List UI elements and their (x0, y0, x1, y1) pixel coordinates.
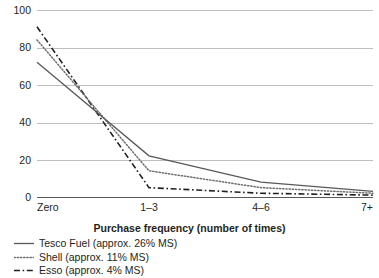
plot-area (37, 10, 373, 198)
y-tick-label: 40 (19, 117, 31, 128)
legend-item-shell[interactable]: Shell (approx. 11% MS) (14, 251, 374, 265)
legend-line-dotted-icon (14, 253, 34, 262)
x-tick-label: 1–3 (140, 201, 158, 213)
y-tick-label: 20 (19, 155, 31, 166)
x-tick-label: 7+ (361, 201, 373, 213)
x-tick-label: 4–6 (252, 201, 270, 213)
legend: Tesco Fuel (approx. 26% MS) Shell (appro… (14, 237, 374, 278)
y-tick-label: 100 (13, 5, 31, 16)
series-line-shell (37, 40, 373, 193)
legend-line-dashdot-icon (14, 266, 34, 275)
x-tick-label: Zero (37, 201, 59, 213)
x-axis: Zero 1–3 4–6 7+ (37, 201, 373, 217)
legend-item-tesco-fuel[interactable]: Tesco Fuel (approx. 26% MS) (14, 237, 374, 251)
legend-item-esso[interactable]: Esso (approx. 4% MS) (14, 264, 374, 278)
y-tick-label: 0 (25, 192, 31, 203)
legend-label: Tesco Fuel (approx. 26% MS) (39, 238, 177, 249)
y-tick-label: 60 (19, 80, 31, 91)
series-layer (37, 10, 373, 198)
legend-line-solid-icon (14, 239, 34, 248)
legend-label: Shell (approx. 11% MS) (39, 252, 149, 263)
x-axis-title: Purchase frequency (number of times) (0, 222, 379, 234)
series-line-esso (37, 27, 373, 195)
y-axis: 100 80 60 40 20 0 (0, 0, 31, 208)
line-chart: 100 80 60 40 20 0 Zero 1–3 4–6 7+ Purcha… (0, 0, 379, 278)
legend-label: Esso (approx. 4% MS) (39, 265, 144, 276)
y-tick-label: 80 (19, 42, 31, 53)
series-line-tesco (37, 62, 373, 191)
cropped-title-artifact (0, 0, 379, 3)
